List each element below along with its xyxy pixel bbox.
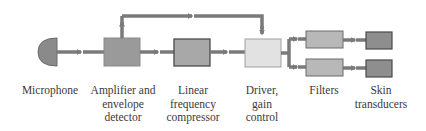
label-line: Skin bbox=[348, 84, 414, 98]
label-amplifier: Amplifier and envelope detector bbox=[86, 84, 160, 125]
label-line: Linear bbox=[162, 84, 224, 98]
amplifier-block bbox=[104, 38, 140, 66]
label-transducers: Skin transducers bbox=[348, 84, 414, 111]
label-microphone: Microphone bbox=[18, 84, 82, 98]
arrow-driver-to-filters bbox=[281, 39, 306, 67]
microphone-icon bbox=[38, 38, 57, 66]
label-line: detector bbox=[86, 111, 160, 125]
label-line: Driver, bbox=[236, 84, 288, 98]
arrow-filters-to-transducers bbox=[343, 40, 366, 68]
label-line: frequency bbox=[162, 98, 224, 112]
filter-block-2 bbox=[306, 59, 343, 76]
compressor-block bbox=[174, 39, 210, 66]
block-diagram: Microphone Amplifier and envelope detect… bbox=[0, 0, 426, 131]
label-line: transducers bbox=[348, 98, 414, 112]
label-line: control bbox=[236, 111, 288, 125]
label-driver: Driver, gain control bbox=[236, 84, 288, 125]
driver-block bbox=[245, 39, 281, 67]
label-line: envelope bbox=[86, 98, 160, 112]
label-filters: Filters bbox=[300, 84, 348, 98]
filter-block-1 bbox=[306, 31, 343, 48]
label-compressor: Linear frequency compressor bbox=[162, 84, 224, 125]
label-line: gain bbox=[236, 98, 288, 112]
arrow-amplifier-to-driver-bypass bbox=[122, 16, 262, 38]
label-line: Amplifier and bbox=[86, 84, 160, 98]
label-line: compressor bbox=[162, 111, 224, 125]
transducer-block-1 bbox=[366, 32, 392, 49]
label-line: Microphone bbox=[18, 84, 82, 98]
transducer-block-2 bbox=[366, 60, 392, 77]
label-line: Filters bbox=[300, 84, 348, 98]
